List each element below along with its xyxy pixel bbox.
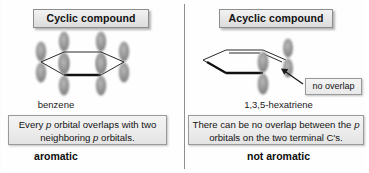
panel-cyclic-compound: Cyclic compound	[0, 0, 184, 173]
hexatriene-chain-bonds	[203, 50, 286, 73]
p-orbital-icon-terminal-group	[258, 39, 293, 95]
benzene-structure	[0, 0, 184, 173]
panel-acyclic-compound: Acyclic compound	[185, 0, 366, 173]
explanation-cyclic-text-1: Every	[19, 119, 46, 130]
hexatriene-front-bond-left	[207, 62, 226, 73]
explanation-cyclic: Every p orbital overlaps with two neighb…	[8, 115, 167, 145]
caption-hexatriene: 1,3,5-hexatriene	[188, 99, 369, 110]
vertical-divider	[184, 4, 185, 169]
callout-no-overlap: no overlap	[305, 78, 362, 95]
verdict-aromatic: aromatic	[0, 150, 148, 162]
verdict-not-aromatic: not aromatic	[188, 150, 369, 162]
explanation-acyclic-text-2: orbitals on the two terminal C's.	[209, 132, 343, 143]
benzene-ring-bonds	[41, 52, 124, 75]
explanation-acyclic-text-1: There can be no overlap between the	[193, 119, 355, 130]
caption-benzene: benzene	[0, 99, 148, 110]
explanation-cyclic-text-3: orbitals.	[98, 132, 134, 143]
explanation-acyclic: There can be no overlap between the p or…	[188, 115, 364, 145]
italic-p-3: p	[354, 119, 359, 130]
